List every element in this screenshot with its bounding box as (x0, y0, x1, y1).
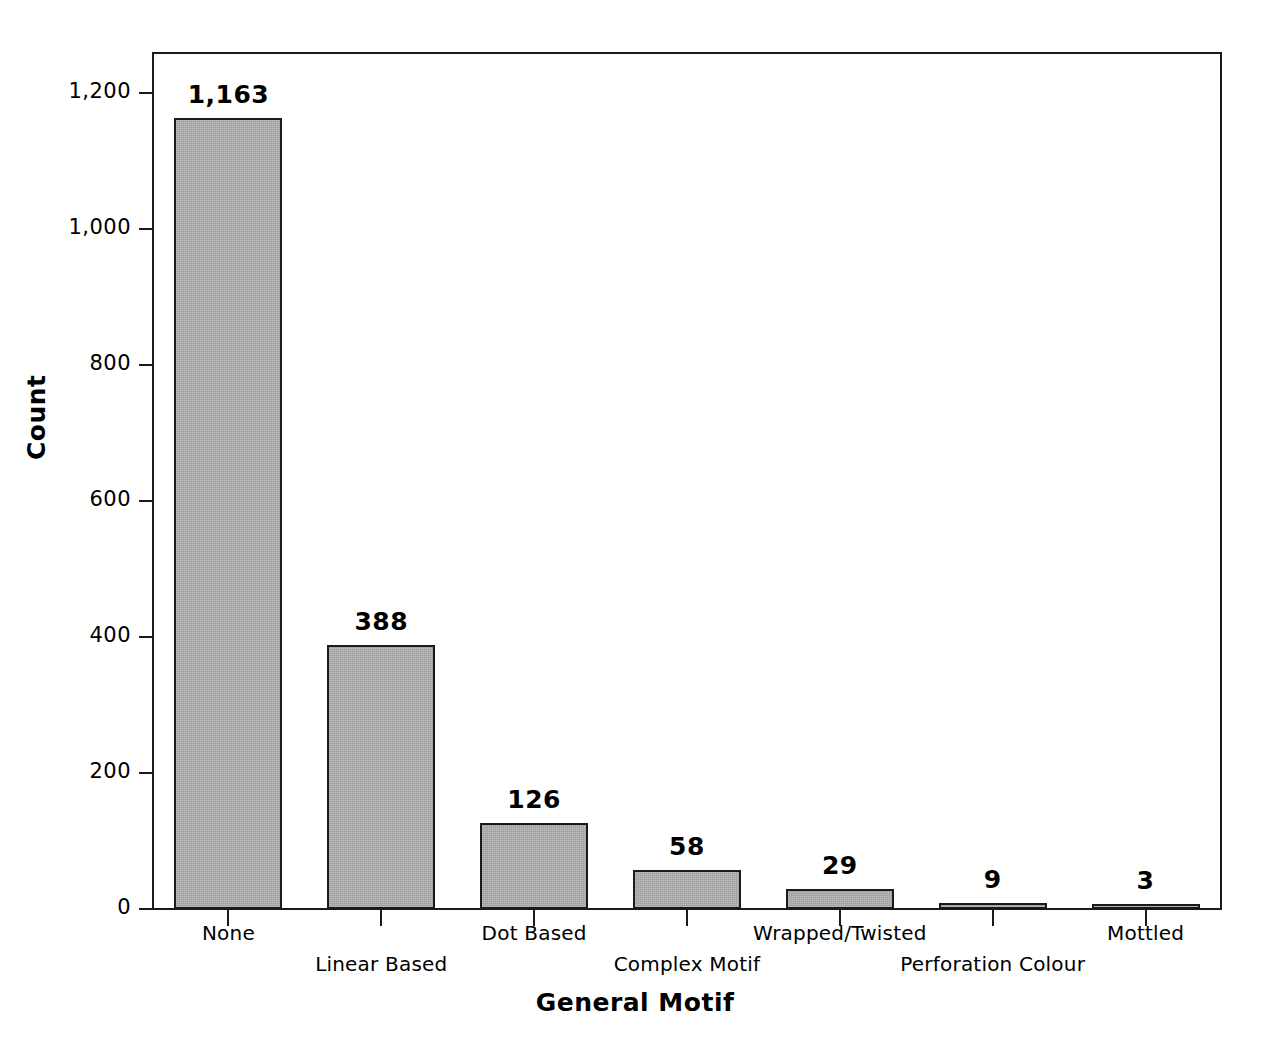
y-axis-tick (139, 364, 153, 366)
y-axis-tick (139, 228, 153, 230)
x-axis-title: General Motif (0, 988, 1270, 1017)
bar-value-label: 388 (354, 607, 408, 636)
bar (480, 823, 588, 909)
bar (939, 903, 1047, 909)
bar-value-label: 126 (507, 785, 561, 814)
x-axis-tick-label: Complex Motif (614, 952, 761, 976)
bar-value-label: 58 (669, 832, 705, 861)
y-axis-tick-label: 600 (89, 487, 131, 511)
bar (633, 870, 741, 909)
x-axis-tick-label: None (202, 921, 255, 945)
y-axis-tick (139, 772, 153, 774)
y-axis-tick (139, 908, 153, 910)
bar (1092, 904, 1200, 909)
bar (786, 889, 894, 909)
y-axis-tick-label: 200 (89, 759, 131, 783)
x-axis-tick-label: Mottled (1107, 921, 1184, 945)
y-axis-tick-label: 1,000 (68, 215, 131, 239)
y-axis-tick-label: 0 (117, 895, 131, 919)
y-axis-tick-label: 800 (89, 351, 131, 375)
x-axis-tick-label: Linear Based (315, 952, 447, 976)
x-axis-tick-label: Dot Based (482, 921, 587, 945)
y-axis-tick (139, 92, 153, 94)
bar-value-label: 9 (984, 865, 1002, 894)
x-axis-tick-label: Wrapped/Twisted (753, 921, 927, 945)
y-axis-tick (139, 636, 153, 638)
x-axis-tick-label: Perforation Colour (900, 952, 1085, 976)
bar-value-label: 3 (1137, 866, 1155, 895)
bar (327, 645, 435, 909)
plot-area (152, 52, 1222, 910)
bar-value-label: 29 (822, 851, 858, 880)
x-axis-tick (992, 910, 994, 926)
y-axis-tick-label: 1,200 (68, 79, 131, 103)
y-axis-title: Count (22, 260, 51, 460)
x-axis-tick (686, 910, 688, 926)
y-axis-tick (139, 500, 153, 502)
bar-chart: Count 02004006008001,0001,200 1,16338812… (0, 0, 1270, 1058)
bar (174, 118, 282, 909)
bar-value-label: 1,163 (188, 80, 270, 109)
x-axis-tick (380, 910, 382, 926)
y-axis-tick-label: 400 (89, 623, 131, 647)
